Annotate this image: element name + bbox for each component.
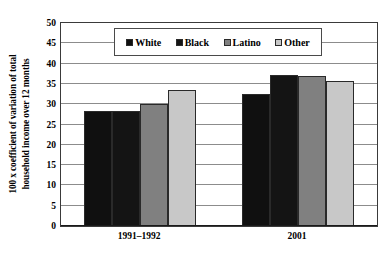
x-axis-tick-labels: 1991–19922001 [60,231,378,247]
legend-swatch-icon [224,39,231,46]
y-axis-title-line-1: 100 x coefficient of variation of total [8,54,18,193]
legend-label: Black [185,37,209,48]
y-axis-tick-label: 30 [47,99,57,109]
x-axis-tick-label: 1991–1992 [118,231,161,242]
y-axis-tick-label: 10 [47,180,57,190]
y-axis-tick-label: 45 [47,38,57,48]
x-axis-tick-label: 2001 [288,231,307,242]
y-axis-tick-label: 15 [47,160,57,170]
legend-swatch-icon [275,39,282,46]
y-axis-title: 100 x coefficient of variation of total … [2,18,36,230]
legend-label: Latino [233,37,261,48]
legend-item-other: Other [275,37,310,48]
y-axis-tick-label: 50 [47,18,57,28]
legend-item-black: Black [176,37,209,48]
y-axis-tick-label: 35 [47,79,57,89]
bar-latino-0 [140,104,168,226]
y-axis-tick-label: 5 [51,201,56,211]
y-axis-tick-label: 40 [47,59,57,69]
legend-item-latino: Latino [224,37,261,48]
y-axis-tick-label: 0 [51,221,56,231]
bar-other-1 [326,81,354,226]
x-axis-line [61,225,377,226]
y-axis-tick-labels: 05101520253035404550 [34,22,58,227]
bar-other-0 [168,90,196,226]
legend-label: White [135,37,161,48]
bar-white-1 [242,94,270,226]
y-axis-tick-label: 25 [47,120,57,130]
legend-item-white: White [126,37,161,48]
bar-black-1 [270,75,298,226]
bar-latino-1 [298,76,326,226]
legend-label: Other [284,37,310,48]
y-axis-title-line-2: household income over 12 months [19,19,32,229]
bar-chart: 100 x coefficient of variation of total … [0,0,391,262]
legend: WhiteBlackLatinoOther [114,28,322,56]
bar-black-0 [112,111,140,226]
y-axis-tick-label: 20 [47,140,57,150]
legend-swatch-icon [126,39,133,46]
bar-white-0 [84,111,112,226]
legend-swatch-icon [176,39,183,46]
